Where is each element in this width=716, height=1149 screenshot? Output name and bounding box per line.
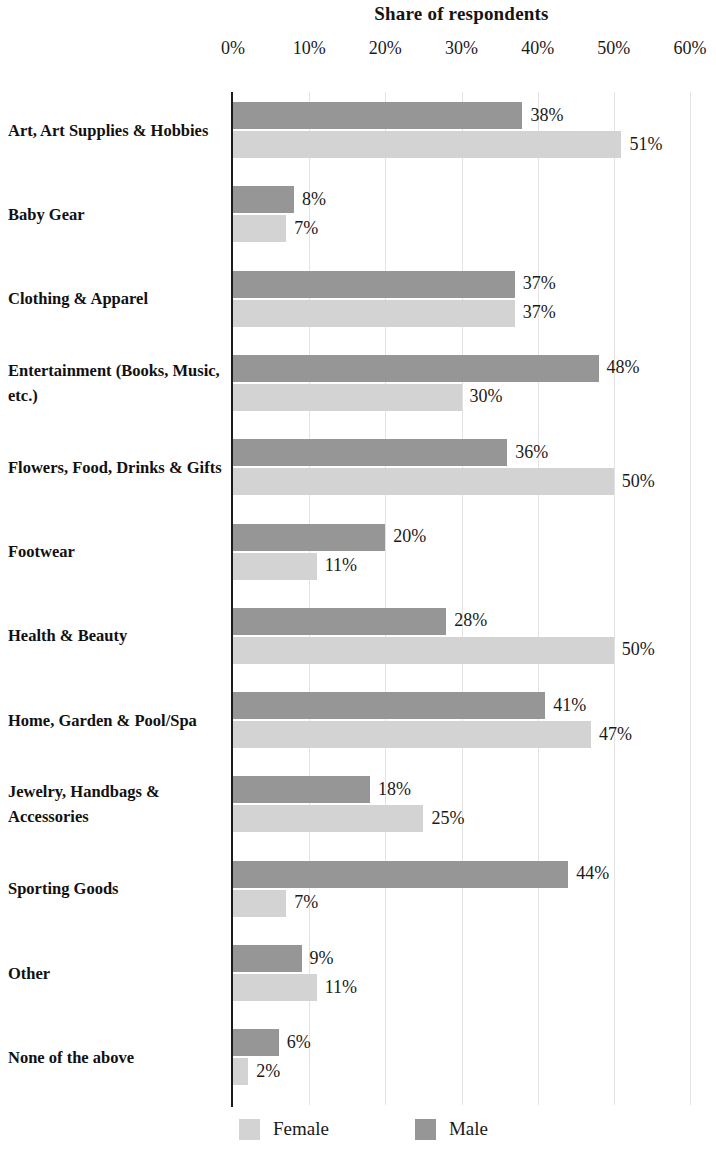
bar-value-label: 2%	[256, 1061, 280, 1082]
bar-value-label: 44%	[576, 863, 609, 884]
bar-group: 9%11%	[233, 945, 690, 1003]
category-label: Footwear	[8, 539, 230, 564]
bar-female	[233, 300, 515, 327]
bar-row: 37%	[233, 271, 690, 298]
chart-legend: FemaleMale	[233, 1118, 696, 1140]
bar-value-label: 47%	[599, 724, 632, 745]
legend-item-female[interactable]: Female	[239, 1118, 329, 1140]
bar-male	[233, 945, 302, 972]
bar-group: 18%25%	[233, 776, 690, 834]
bar-row: 8%	[233, 186, 690, 213]
bar-value-label: 51%	[629, 134, 662, 155]
bar-value-label: 30%	[470, 386, 503, 407]
bar-group: 20%11%	[233, 524, 690, 582]
gridline	[690, 92, 691, 1105]
bar-row: 18%	[233, 776, 690, 803]
bar-female	[233, 215, 286, 242]
x-tick-label: 60%	[674, 38, 707, 59]
bar-row: 7%	[233, 215, 690, 242]
bar-male	[233, 355, 599, 382]
bar-group: 37%37%	[233, 271, 690, 329]
bar-row: 41%	[233, 692, 690, 719]
bar-row: 25%	[233, 805, 690, 832]
bar-row: 6%	[233, 1029, 690, 1056]
x-tick-label: 30%	[445, 38, 478, 59]
bar-value-label: 37%	[523, 302, 556, 323]
bar-value-label: 18%	[378, 779, 411, 800]
bar-male	[233, 186, 294, 213]
bar-row: 30%	[233, 384, 690, 411]
bar-row: 36%	[233, 439, 690, 466]
bar-row: 20%	[233, 524, 690, 551]
x-tick-label: 20%	[369, 38, 402, 59]
bar-male	[233, 271, 515, 298]
bar-group: 41%47%	[233, 692, 690, 750]
bar-group: 36%50%	[233, 439, 690, 497]
bar-row: 28%	[233, 608, 690, 635]
bar-row: 51%	[233, 131, 690, 158]
bar-group: 28%50%	[233, 608, 690, 666]
x-axis-tick-labels: 0%10%20%30%40%50%60%	[0, 38, 716, 64]
category-label: Flowers, Food, Drinks & Gifts	[8, 455, 230, 480]
legend-label: Male	[449, 1118, 488, 1140]
plot-area: 38%51%8%7%37%37%48%30%36%50%20%11%28%50%…	[233, 92, 690, 1105]
bar-row: 9%	[233, 945, 690, 972]
bar-row: 50%	[233, 468, 690, 495]
bar-value-label: 48%	[607, 357, 640, 378]
legend-swatch-icon	[415, 1119, 436, 1140]
category-label: None of the above	[8, 1045, 230, 1070]
bar-chart: Share of respondents 0%10%20%30%40%50%60…	[0, 0, 716, 1149]
bar-value-label: 38%	[530, 105, 563, 126]
bar-female	[233, 1058, 248, 1085]
bar-value-label: 28%	[454, 610, 487, 631]
bar-male	[233, 608, 446, 635]
category-label: Clothing & Apparel	[8, 286, 230, 311]
category-label: Health & Beauty	[8, 623, 230, 648]
bar-female	[233, 637, 614, 664]
bar-male	[233, 861, 568, 888]
bar-row: 48%	[233, 355, 690, 382]
bar-group: 44%7%	[233, 861, 690, 919]
legend-item-male[interactable]: Male	[415, 1118, 488, 1140]
category-label: Other	[8, 961, 230, 986]
bar-female	[233, 384, 462, 411]
bar-female	[233, 468, 614, 495]
bar-value-label: 25%	[431, 808, 464, 829]
bar-male	[233, 692, 545, 719]
bar-value-label: 9%	[310, 948, 334, 969]
bar-row: 50%	[233, 637, 690, 664]
bar-row: 11%	[233, 553, 690, 580]
bar-male	[233, 439, 507, 466]
bar-female	[233, 890, 286, 917]
legend-swatch-icon	[239, 1119, 260, 1140]
bar-female	[233, 721, 591, 748]
category-label: Home, Garden & Pool/Spa	[8, 708, 230, 733]
bar-row: 44%	[233, 861, 690, 888]
bar-male	[233, 776, 370, 803]
x-tick-label: 0%	[221, 38, 245, 59]
x-tick-label: 40%	[521, 38, 554, 59]
bar-male	[233, 524, 385, 551]
bar-row: 11%	[233, 974, 690, 1001]
x-tick-label: 50%	[597, 38, 630, 59]
bar-male	[233, 102, 522, 129]
bar-row: 38%	[233, 102, 690, 129]
bar-group: 38%51%	[233, 102, 690, 160]
bar-row: 37%	[233, 300, 690, 327]
bar-value-label: 7%	[294, 892, 318, 913]
category-label: Art, Art Supplies & Hobbies	[8, 118, 230, 143]
bar-value-label: 6%	[287, 1032, 311, 1053]
bar-value-label: 37%	[523, 273, 556, 294]
bar-value-label: 8%	[302, 189, 326, 210]
bar-row: 7%	[233, 890, 690, 917]
bar-value-label: 50%	[622, 471, 655, 492]
category-label: Entertainment (Books, Music, etc.)	[8, 358, 230, 408]
bar-value-label: 11%	[325, 555, 357, 576]
bar-value-label: 7%	[294, 218, 318, 239]
bar-female	[233, 553, 317, 580]
bar-female	[233, 974, 317, 1001]
x-tick-label: 10%	[293, 38, 326, 59]
category-label: Baby Gear	[8, 202, 230, 227]
bar-group: 8%7%	[233, 186, 690, 244]
bar-value-label: 41%	[553, 695, 586, 716]
